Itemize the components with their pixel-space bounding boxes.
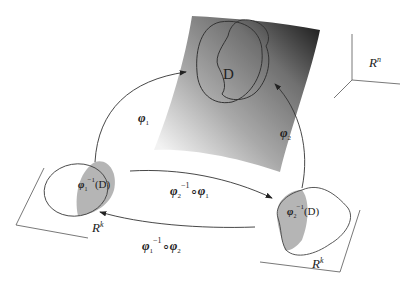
right-preimage-label: φ2−1(D): [287, 203, 319, 219]
right-preimage-shaded: [277, 190, 308, 251]
transition-21-arrow: [100, 212, 255, 227]
left-chart-space-label: Rk: [91, 220, 104, 235]
region-d-label: D: [223, 66, 234, 82]
ambient-space-label: Rn: [368, 55, 381, 70]
manifold-charts-diagram: D Rn φ1−1(D) Rk φ2−1(D) Rk φ1 φ2 φ2−1∘φ1…: [0, 0, 414, 289]
right-chart-plane: [260, 210, 360, 272]
manifold-surface: [154, 16, 320, 172]
phi1-label: φ1: [138, 110, 150, 127]
left-preimage-label: φ1−1(D): [78, 176, 110, 192]
transition-12-label: φ2−1∘φ1: [170, 181, 209, 200]
ambient-axes: [334, 34, 400, 98]
transition-21-label: φ1−1∘φ2: [142, 236, 181, 255]
right-chart-space-label: Rk: [311, 256, 324, 271]
